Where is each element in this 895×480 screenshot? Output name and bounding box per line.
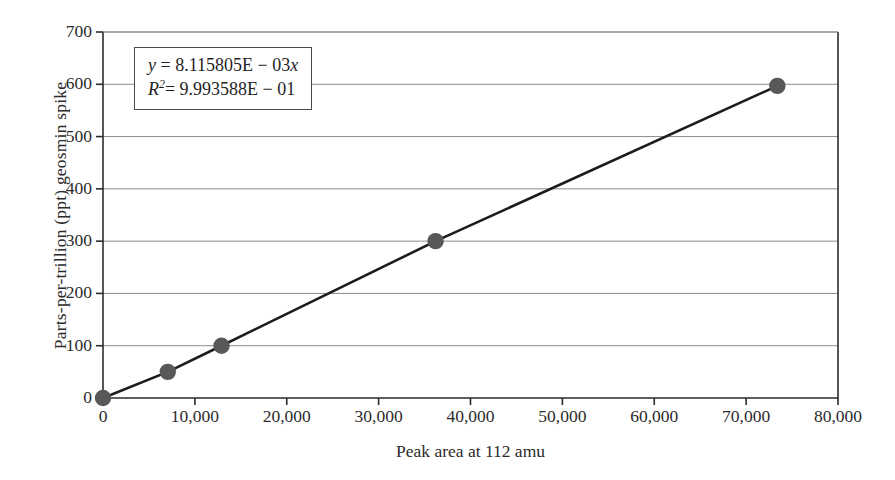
calibration-curve-figure: Parts-per-trillion (ppt) geosmin spike P… [0, 0, 895, 480]
equation-y-symbol: y [148, 55, 156, 75]
y-tick-label: 100 [66, 337, 92, 355]
x-tick-label: 40,000 [446, 406, 494, 427]
x-tick-label: 70,000 [722, 406, 770, 427]
x-tick-label: 60,000 [630, 406, 678, 427]
equation-body: = 8.115805E − 03 [161, 55, 291, 75]
data-point-marker[interactable] [95, 390, 111, 406]
x-tick-label: 80,000 [814, 406, 862, 427]
y-tick-label: 400 [66, 180, 92, 198]
data-point-marker[interactable] [213, 338, 229, 354]
r-squared-text: R2= 9.993588E − 01 [148, 77, 298, 101]
x-tick-label: 50,000 [538, 406, 586, 427]
regression-equation: y = 8.115805E − 03x [148, 54, 298, 77]
regression-annotation-box: y = 8.115805E − 03x R2= 9.993588E − 01 [134, 47, 312, 110]
y-tick-label: 500 [66, 128, 92, 146]
data-series [95, 78, 786, 407]
x-tick-label: 10,000 [171, 406, 219, 427]
x-tick-label: 0 [99, 406, 108, 427]
y-tick-label: 0 [83, 389, 92, 407]
r-symbol: R [148, 79, 159, 99]
data-point-marker[interactable] [427, 233, 443, 249]
y-tick-label: 300 [66, 232, 92, 250]
data-point-marker[interactable] [160, 364, 176, 380]
x-axis-title: Peak area at 112 amu [103, 441, 838, 462]
y-tick-label: 600 [66, 76, 92, 94]
y-tick-label: 700 [66, 23, 92, 41]
r-squared-value: = 9.993588E − 01 [165, 79, 295, 99]
equation-x-symbol: x [290, 55, 298, 75]
data-point-marker[interactable] [769, 78, 785, 94]
x-tick-label: 20,000 [263, 406, 311, 427]
x-tick-label: 30,000 [355, 406, 403, 427]
y-tick-label: 200 [66, 285, 92, 303]
